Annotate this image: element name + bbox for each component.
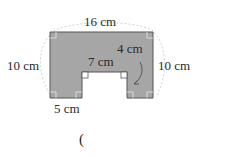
label-bottom-left: 5 cm: [54, 102, 80, 115]
notch-corner-markers: [82, 72, 127, 78]
label-right-height: 10 cm: [158, 59, 190, 72]
label-top-length: 16 cm: [84, 15, 116, 28]
label-left-height: 10 cm: [7, 59, 39, 72]
label-inner-top: 7 cm: [88, 55, 114, 68]
label-notch-depth: 4 cm: [117, 42, 143, 55]
answer-parenthesis: (: [79, 133, 84, 146]
